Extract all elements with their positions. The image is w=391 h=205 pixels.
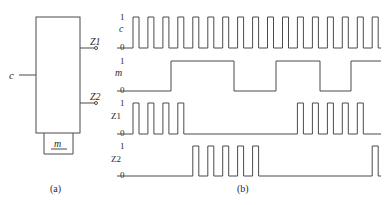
output-z2-label: Z2 (90, 91, 101, 102)
mode-m-waveform (117, 61, 381, 91)
input-c-label: c (9, 69, 14, 81)
z2-low-label: 0 (120, 170, 125, 180)
signal-labels: 1 c 0 1 m 0 1 Z1 0 1 Z2 0 (111, 12, 125, 180)
block-diagram (19, 17, 98, 154)
output-z1-waveform (117, 103, 381, 134)
z1-signal-label: Z1 (111, 111, 121, 121)
z2-signal-label: Z2 (111, 154, 121, 164)
z1-low-label: 0 (120, 128, 125, 138)
z2-high-label: 1 (120, 141, 125, 151)
c-signal-label: c (119, 23, 124, 34)
m-low-label: 0 (120, 85, 125, 95)
z1-high-label: 1 (120, 98, 125, 108)
mode-m-label: m (54, 138, 61, 149)
m-signal-label: m (115, 67, 122, 78)
caption-b: (b) (237, 183, 249, 195)
clock-c-waveform (117, 17, 381, 48)
output-z1-label: Z1 (90, 36, 101, 47)
c-high-label: 1 (120, 12, 125, 22)
c-low-label: 0 (120, 42, 125, 52)
m-high-label: 1 (120, 56, 125, 66)
output-z2-waveform (117, 146, 381, 176)
timing-diagram-figure: c Z1 Z2 m (a) 1 c 0 1 m 0 1 Z1 0 1 Z2 0 … (0, 0, 391, 205)
circuit-block (36, 17, 80, 133)
waveforms (117, 17, 381, 176)
caption-a: (a) (50, 183, 61, 195)
